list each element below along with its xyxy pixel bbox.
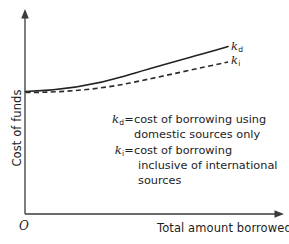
legend-equals-kd: = [124, 113, 134, 127]
legend-entry-kd-line1: kd=cost of borrowing using [108, 112, 277, 128]
legend-symbol-ki-base: k [115, 143, 122, 157]
curve-kd [26, 47, 229, 92]
legend-entry-kd: kd=cost of borrowing using domestic sour… [108, 112, 277, 143]
x-axis-label: Total amount borrowed [157, 223, 289, 235]
curve-label-ki: ki [231, 55, 240, 67]
legend-entry-ki-line1: ki=cost of borrowing [108, 143, 277, 159]
y-axis-arrow-icon [21, 9, 29, 19]
legend-equals-ki: = [124, 144, 134, 158]
x-axis-arrow-icon [275, 210, 285, 218]
legend-text-kd-2: domestic sources only [108, 128, 260, 142]
legend-entry-ki-line3: sources [108, 174, 277, 188]
legend-symbol-kd: kd [108, 112, 124, 128]
legend-symbol-ki: ki [108, 143, 124, 159]
legend-symbol-kd-subscript: d [119, 118, 124, 127]
figure-container: Cost of funds Total amount borrowed O kd… [0, 0, 289, 244]
legend-entry-ki-line2: inclusive of international [108, 159, 277, 173]
curve-ki [26, 62, 229, 93]
legend-symbol-ki-subscript: i [122, 149, 124, 158]
curve-label-kd-subscript: d [238, 45, 243, 54]
legend-text-ki-3: sources [108, 174, 181, 188]
legend-entry-ki: ki=cost of borrowing inclusive of intern… [108, 143, 277, 188]
legend-text-ki-2: inclusive of international [108, 159, 277, 173]
curve-label-kd: kd [231, 41, 243, 53]
y-axis-label: Cost of funds [12, 63, 28, 193]
curve-label-ki-symbol: k [231, 53, 238, 67]
legend-text-kd-1: cost of borrowing using [134, 113, 266, 126]
curve-label-kd-symbol: k [231, 39, 238, 53]
legend-block: kd=cost of borrowing using domestic sour… [108, 112, 277, 188]
origin-label: O [19, 220, 29, 232]
legend-entry-kd-line2: domestic sources only [108, 128, 277, 142]
legend-text-ki-1: cost of borrowing [134, 144, 232, 157]
